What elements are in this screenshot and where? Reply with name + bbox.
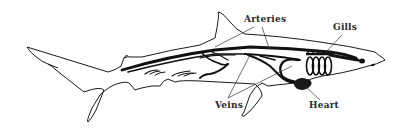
heart-organ: [294, 78, 312, 90]
shark-eye: [359, 59, 375, 67]
gills: [306, 51, 332, 75]
leader-lines: [215, 27, 342, 100]
label-gills: Gills: [333, 22, 357, 32]
shark-illustration: [0, 0, 407, 134]
label-arteries: Arteries: [244, 14, 286, 24]
label-veins: Veins: [215, 100, 243, 110]
label-heart: Heart: [309, 100, 339, 110]
shark-circulatory-diagram: Arteries Gills Veins Heart: [0, 0, 407, 134]
